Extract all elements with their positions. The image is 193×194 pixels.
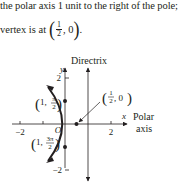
point-1-3pi-over-2 — [63, 145, 67, 149]
vertex-label: ( 1 2 , 0 ) — [102, 89, 132, 107]
point-1-pi-over-2 — [63, 99, 67, 103]
x-axis-label: x — [121, 111, 126, 121]
tick-label-y-neg2: −2 — [52, 165, 62, 175]
point-bottom-label: ( 1, 3π 2 ) — [31, 135, 60, 153]
axis-label: axis — [136, 123, 152, 134]
vertex-leader — [79, 102, 100, 122]
vertex-label-den: 2 — [109, 97, 113, 105]
svg-text:): ) — [57, 96, 62, 113]
vertex-label-num: 1 — [109, 89, 113, 97]
tick-label-y-2: 2 — [57, 73, 62, 83]
point-top-r: 1, — [40, 97, 47, 107]
point-top-den: 2 — [52, 103, 56, 111]
tick-label-x-neg2: −2 — [15, 127, 25, 137]
y-axis-label: y — [59, 64, 64, 74]
point-top-theta: π — [52, 95, 56, 103]
svg-text:(: ( — [102, 90, 107, 107]
point-bottom-theta: 3π — [46, 135, 54, 143]
point-bottom-r: 1, — [36, 137, 43, 147]
svg-text:): ) — [55, 136, 60, 153]
tick-label-x-2: 2 — [109, 127, 114, 137]
point-bottom-den: 2 — [48, 143, 52, 151]
svg-text:): ) — [127, 90, 132, 107]
point-top-label: ( 1, π 2 ) — [35, 95, 62, 113]
directrix-label: Directrix — [71, 55, 107, 66]
polar-label: Polar — [133, 111, 155, 122]
vertex-point — [75, 122, 79, 126]
parabola-diagram: Directrix −2 2 2 −2 O y x Polar axis ( 1… — [0, 0, 193, 194]
vertex-label-rest: , 0 — [114, 93, 124, 103]
